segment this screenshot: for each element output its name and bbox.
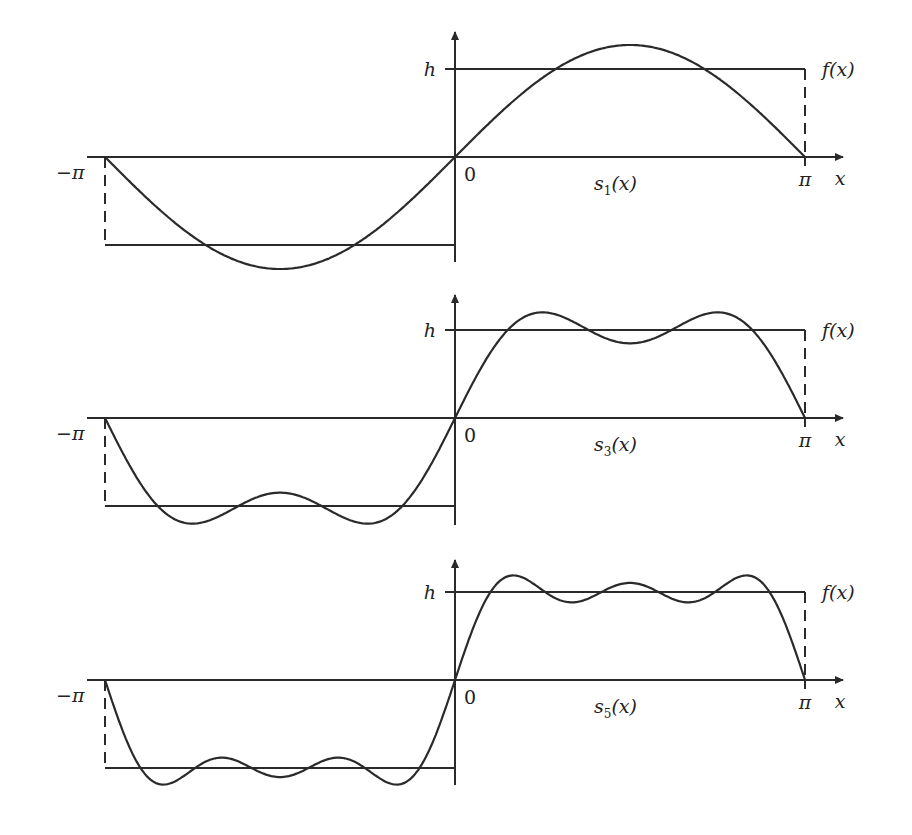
pi-label: π [798, 168, 812, 190]
label-tail: (x) [611, 172, 637, 194]
label-main: s [594, 172, 604, 194]
fourier-partial-sums-figure: h−π0πxf(x)s1(x) h−π0πxf(x)s3(x) h−π0πxf(… [0, 0, 912, 835]
label-subscript: 3 [604, 445, 612, 459]
partial-sum-label: s5(x) [594, 695, 637, 721]
x-axis-label: x [835, 428, 846, 450]
label-tail: (x) [611, 433, 637, 455]
label-main: s [594, 433, 604, 455]
partial-sum-label: s1(x) [594, 172, 637, 198]
label-subscript: 5 [604, 707, 612, 721]
minus-pi-label: −π [56, 684, 85, 706]
panel-s1: h−π0πxf(x)s1(x) [56, 32, 855, 269]
zero-label: 0 [464, 424, 476, 446]
f-of-x-label: f(x) [820, 581, 855, 603]
h-label: h [424, 319, 436, 341]
pi-label: π [798, 691, 812, 713]
h-label: h [424, 581, 436, 603]
f-of-x-label: f(x) [820, 319, 855, 341]
minus-pi-label: −π [56, 161, 85, 183]
x-axis-label: x [835, 167, 846, 189]
pi-label: π [798, 429, 812, 451]
x-axis-label: x [835, 690, 846, 712]
partial-sum-label: s3(x) [594, 433, 637, 459]
panel-s3: h−π0πxf(x)s3(x) [56, 295, 855, 525]
label-main: s [594, 695, 604, 717]
label-subscript: 1 [604, 184, 612, 198]
h-label: h [424, 58, 436, 80]
minus-pi-label: −π [56, 422, 85, 444]
f-of-x-label: f(x) [820, 58, 855, 80]
label-tail: (x) [611, 695, 637, 717]
zero-label: 0 [464, 163, 476, 185]
zero-label: 0 [464, 686, 476, 708]
panel-s5: h−π0πxf(x)s5(x) [56, 560, 855, 785]
